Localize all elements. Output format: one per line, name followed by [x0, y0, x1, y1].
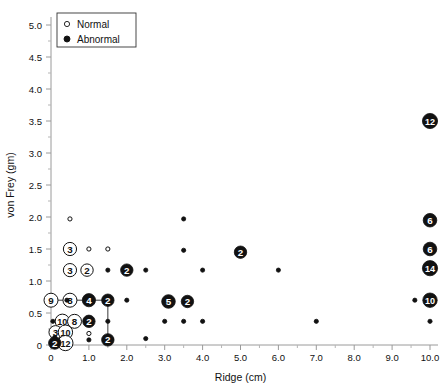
- y-tick-label: 4.0: [29, 84, 42, 95]
- point-count-label: 4: [86, 295, 92, 306]
- abnormal-marker: [182, 217, 186, 221]
- normal-marker: [87, 331, 91, 335]
- abnormal-marker: [125, 298, 129, 302]
- abnormal-marker: [163, 319, 167, 323]
- data-point: 2: [83, 315, 95, 327]
- data-point: [106, 247, 110, 251]
- y-tick-label: 0.5: [29, 308, 42, 319]
- y-tick-label: 4.5: [29, 52, 42, 63]
- data-point: [125, 298, 129, 302]
- data-point: 6: [423, 213, 437, 227]
- x-tick-label: 1.0: [82, 352, 95, 363]
- data-point: [87, 338, 91, 342]
- x-tick-label: 5.0: [234, 352, 247, 363]
- normal-marker: [87, 247, 91, 251]
- x-tick-label: 6.0: [272, 352, 285, 363]
- abnormal-marker: [51, 319, 55, 323]
- point-count-label: 6: [427, 215, 433, 226]
- data-point: 2: [102, 334, 114, 346]
- abnormal-marker: [144, 268, 148, 272]
- abnormal-marker: [413, 298, 417, 302]
- data-point: [428, 319, 432, 323]
- x-tick-label: 8.0: [348, 352, 361, 363]
- x-tick-label: 7.0: [310, 352, 323, 363]
- data-point: [276, 268, 280, 272]
- point-count-label: 9: [48, 295, 54, 306]
- data-point: 2: [102, 294, 114, 306]
- data-point: [413, 298, 417, 302]
- data-point: [68, 217, 72, 221]
- x-tick-label: 2.0: [120, 352, 133, 363]
- y-tick-label: 0: [37, 340, 42, 351]
- abnormal-marker: [106, 268, 110, 272]
- abnormal-marker: [87, 338, 91, 342]
- data-point: [106, 319, 110, 323]
- data-point: 4: [82, 294, 95, 307]
- data-point: 12: [422, 113, 437, 128]
- data-point: 14: [422, 261, 437, 276]
- point-count-label: 12: [425, 117, 435, 127]
- data-point: [182, 319, 186, 323]
- data-point: 3: [63, 242, 76, 255]
- data-point: [51, 319, 55, 323]
- data-point: 10: [423, 293, 437, 307]
- data-point: 6: [423, 242, 437, 256]
- point-count-label: 3: [67, 244, 73, 255]
- data-point: [87, 247, 91, 251]
- data-point: [65, 298, 69, 302]
- data-point: [201, 319, 205, 323]
- data-point: [163, 319, 167, 323]
- abnormal-marker: [314, 319, 318, 323]
- y-tick-label: 3.0: [29, 148, 42, 159]
- data-point: 3: [63, 264, 76, 277]
- data-point: [144, 337, 148, 341]
- legend-label: Normal: [77, 19, 109, 30]
- x-tick-label: 9.0: [385, 352, 398, 363]
- data-point: 2: [49, 337, 61, 349]
- point-count-label: 2: [238, 247, 244, 258]
- data-point: [314, 319, 318, 323]
- x-tick-label: 3.0: [158, 352, 171, 363]
- x-tick-label: 4.0: [196, 352, 209, 363]
- x-axis-title: Ridge (cm): [215, 371, 266, 383]
- abnormal-marker: [276, 268, 280, 272]
- y-tick-label: 2.5: [29, 180, 42, 191]
- point-count-label: 2: [185, 296, 191, 307]
- abnormal-marker: [428, 319, 432, 323]
- x-tick-label: 0: [48, 352, 53, 363]
- abnormal-marker: [201, 268, 205, 272]
- point-count-label: 2: [84, 265, 90, 276]
- abnormal-marker: [65, 298, 69, 302]
- data-point: [106, 268, 110, 272]
- data-point: [201, 268, 205, 272]
- plot-canvas: 01.02.03.04.05.06.07.08.09.010.0 00.51.0…: [0, 0, 443, 391]
- y-axis-title: von Frey (gm): [4, 152, 16, 217]
- point-count-label: 2: [52, 338, 58, 349]
- legend-abnormal-icon: [64, 36, 70, 42]
- y-tick-label: 5.0: [29, 20, 42, 31]
- data-point: 2: [121, 264, 133, 276]
- legend: NormalAbnormal: [57, 13, 136, 47]
- scatter-chart: 01.02.03.04.05.06.07.08.09.010.0 00.51.0…: [0, 0, 443, 391]
- abnormal-marker: [182, 319, 186, 323]
- point-count-label: 2: [124, 265, 130, 276]
- point-count-label: 8: [72, 316, 78, 327]
- abnormal-marker: [144, 337, 148, 341]
- normal-marker: [106, 247, 110, 251]
- data-point: [182, 248, 186, 252]
- legend-label: Abnormal: [77, 34, 120, 45]
- abnormal-marker: [201, 319, 205, 323]
- point-count-label: 2: [105, 295, 111, 306]
- point-count-label: 2: [105, 334, 111, 345]
- y-tick-label: 3.5: [29, 116, 42, 127]
- point-count-label: 3: [67, 265, 73, 276]
- data-point: [87, 331, 91, 335]
- normal-marker: [68, 217, 72, 221]
- point-count-label: 2: [86, 316, 92, 327]
- point-count-label: 12: [60, 339, 70, 349]
- y-tick-label: 2.0: [29, 212, 42, 223]
- data-point: 5: [162, 295, 176, 309]
- x-tick-label: 10.0: [421, 352, 440, 363]
- point-count-label: 14: [425, 264, 435, 274]
- data-point: 9: [44, 293, 58, 307]
